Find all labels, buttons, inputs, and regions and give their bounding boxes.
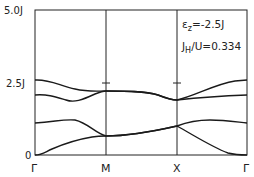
jh-annotation: JH/U=0.334 <box>181 40 242 55</box>
band-2-curve <box>35 91 247 101</box>
y-tick-5: 5.0J <box>4 5 23 16</box>
epsilon-annotation: εz=-2.5J <box>182 18 224 33</box>
y-tick-0: 0 <box>25 150 31 161</box>
x-tick-x: X <box>173 162 181 175</box>
x-tick-gamma-left: Γ <box>31 162 38 175</box>
band-structure-chart: 5.0J 2.5J 0 Γ M X Γ εz=-2.5J JH/U=0.334 <box>0 0 254 177</box>
x-tick-m: M <box>101 162 111 175</box>
y-tick-2-5: 2.5J <box>6 78 25 89</box>
x-tick-gamma-right: Γ <box>243 162 250 175</box>
band-4-curve <box>35 126 247 155</box>
